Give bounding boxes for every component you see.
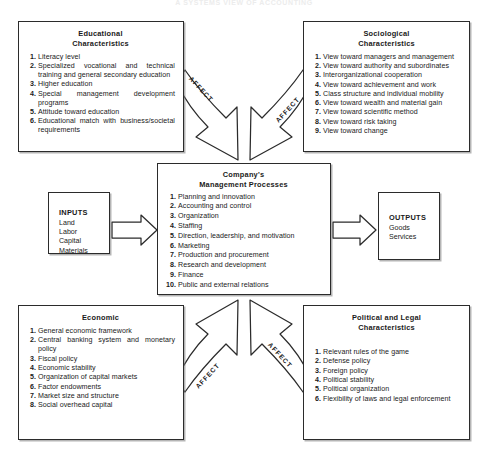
list-item: Accounting and control bbox=[164, 202, 323, 212]
list-item: View toward scientific method bbox=[311, 108, 462, 117]
list-item: Finance bbox=[164, 271, 323, 281]
box-inputs-line: Labor bbox=[59, 228, 88, 237]
box-sociological-characteristics: Sociological Characteristics View toward… bbox=[303, 21, 470, 152]
box-outputs: OUTPUTS Goods Services bbox=[378, 192, 440, 260]
box-inputs-content: INPUTS Land Labor Capital Materials bbox=[59, 208, 88, 256]
list-item: Production and procurement bbox=[164, 251, 323, 261]
list-item: Flexibility of laws and legal enforcemen… bbox=[311, 395, 462, 404]
box-outputs-title: OUTPUTS bbox=[389, 213, 426, 223]
list-item: Public and external relations bbox=[164, 281, 323, 291]
list-item: Attitude toward education bbox=[26, 108, 175, 117]
list-item: Educational match with business/societal… bbox=[26, 117, 175, 135]
list-item: Marketing bbox=[164, 242, 323, 252]
box-management-processes: Company's Management Processes Planning … bbox=[157, 163, 331, 295]
list-item: Staffing bbox=[164, 222, 323, 232]
list-item: Organization of capital markets bbox=[26, 373, 175, 382]
list-item: Economic stability bbox=[26, 364, 175, 373]
box-management-list: Planning and innovation Accounting and c… bbox=[164, 193, 323, 291]
box-educational-title-line1: Educational bbox=[26, 29, 175, 39]
list-item: Research and development bbox=[164, 261, 323, 271]
systems-diagram: A SYSTEMS VIEW OF ACCOUNTING AFFECT AFFE… bbox=[0, 0, 488, 456]
box-inputs-line: Materials bbox=[59, 247, 88, 256]
list-item: Planning and innovation bbox=[164, 193, 323, 203]
list-item: Central banking system and monetary poli… bbox=[26, 336, 175, 354]
box-political-title-line1: Political and Legal bbox=[311, 313, 462, 323]
list-item: Foreign policy bbox=[311, 367, 462, 376]
list-item: Political stability bbox=[311, 376, 462, 385]
list-item: View toward authority and subordinates bbox=[311, 62, 462, 71]
box-sociological-title-line1: Sociological bbox=[311, 29, 462, 39]
box-political-list: Relevant rules of the game Defense polic… bbox=[311, 348, 462, 404]
list-item: Social overhead capital bbox=[26, 401, 175, 410]
list-item: Class structure and individual mobility bbox=[311, 90, 462, 99]
list-item: View toward change bbox=[311, 127, 462, 136]
list-item: Special management development programs bbox=[26, 90, 175, 108]
box-political-title-line2: Characteristics bbox=[311, 323, 462, 333]
inputs-arrow bbox=[112, 215, 157, 245]
box-economic-title-line1: Economic bbox=[26, 313, 175, 323]
list-item: Relevant rules of the game bbox=[311, 348, 462, 357]
box-educational-title-line2: Characteristics bbox=[26, 39, 175, 49]
box-economic-list: General economic framework Central banki… bbox=[26, 327, 175, 410]
list-item: Political organization bbox=[311, 385, 462, 394]
list-item: View toward managers and management bbox=[311, 53, 462, 62]
box-economic-title: Economic bbox=[26, 313, 175, 323]
list-item: Interorganizational cooperation bbox=[311, 71, 462, 80]
list-item: Direction, leadership, and motivation bbox=[164, 232, 323, 242]
box-management-title-line2: Management Processes bbox=[164, 180, 323, 190]
box-inputs: INPUTS Land Labor Capital Materials bbox=[48, 192, 110, 254]
box-inputs-line: Land bbox=[59, 219, 88, 228]
list-item: View toward wealth and material gain bbox=[311, 99, 462, 108]
list-item: Fiscal policy bbox=[26, 355, 175, 364]
box-educational-list: Literacy level Specialized vocational an… bbox=[26, 53, 175, 136]
list-item: Market size and structure bbox=[26, 392, 175, 401]
list-item: Literacy level bbox=[26, 53, 175, 62]
list-item: Factor endowments bbox=[26, 383, 175, 392]
box-outputs-line: Services bbox=[389, 233, 426, 242]
box-management-title: Company's Management Processes bbox=[164, 170, 323, 189]
affect-arrow-top-left bbox=[176, 70, 238, 160]
list-item: Organization bbox=[164, 212, 323, 222]
list-item: Specialized vocational and technical tra… bbox=[26, 62, 175, 80]
list-item: Defense policy bbox=[311, 357, 462, 366]
outputs-arrow bbox=[333, 215, 376, 245]
box-inputs-line: Capital bbox=[59, 237, 88, 246]
list-item: Higher education bbox=[26, 80, 175, 89]
box-educational-title: Educational Characteristics bbox=[26, 29, 175, 48]
box-management-title-line1: Company's bbox=[164, 170, 323, 180]
box-sociological-title: Sociological Characteristics bbox=[311, 29, 462, 48]
box-inputs-title: INPUTS bbox=[59, 208, 88, 218]
list-item: General economic framework bbox=[26, 327, 175, 336]
box-outputs-content: OUTPUTS Goods Services bbox=[389, 213, 426, 242]
box-sociological-list: View toward managers and management View… bbox=[311, 53, 462, 136]
list-item: View toward achievement and work bbox=[311, 81, 462, 90]
box-political-legal-characteristics: Political and Legal Characteristics Rele… bbox=[303, 305, 470, 440]
box-economic-characteristics: Economic General economic framework Cent… bbox=[18, 305, 184, 440]
box-educational-characteristics: Educational Characteristics Literacy lev… bbox=[18, 21, 184, 152]
box-outputs-line: Goods bbox=[389, 224, 426, 233]
box-sociological-title-line2: Characteristics bbox=[311, 39, 462, 49]
box-political-title: Political and Legal Characteristics bbox=[311, 313, 462, 332]
list-item: View toward risk taking bbox=[311, 118, 462, 127]
